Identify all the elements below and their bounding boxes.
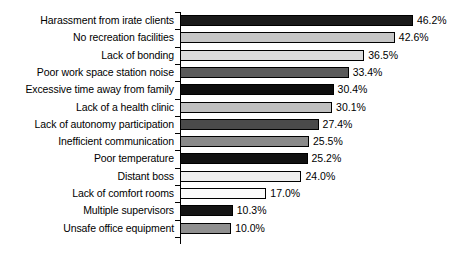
category-label: Lack of comfort rooms [0, 185, 174, 202]
axis-tick [175, 12, 180, 13]
category-label: Lack of a health clinic [0, 99, 174, 116]
category-label: Excessive time away from family [0, 81, 174, 98]
bar [181, 119, 319, 130]
bar [181, 67, 349, 78]
category-label: Poor work space station noise [0, 64, 174, 81]
axis-tick [175, 168, 180, 169]
bar-value-label: 10.3% [237, 202, 267, 219]
bar-row: Lack of bonding36.5% [0, 47, 461, 64]
category-label: Lack of autonomy participation [0, 116, 174, 133]
bar-fill [181, 153, 308, 164]
bar-value-label: 25.2% [312, 150, 342, 167]
bar-fill [181, 188, 266, 199]
bar-fill [181, 223, 231, 234]
bar-value-label: 10.0% [235, 220, 265, 237]
bar-row: Lack of comfort rooms17.0% [0, 185, 461, 202]
bar [181, 15, 413, 26]
axis-tick [175, 237, 180, 238]
bar-row: Unsafe office equipment10.0% [0, 220, 461, 237]
bar [181, 188, 266, 199]
bar-fill [181, 205, 233, 216]
category-label: Multiple supervisors [0, 202, 174, 219]
axis-tick [175, 64, 180, 65]
bar-value-label: 46.2% [417, 12, 447, 29]
bar [181, 32, 395, 43]
bar-row: Distant boss24.0% [0, 168, 461, 185]
axis-tick [175, 47, 180, 48]
bar-row: Excessive time away from family30.4% [0, 81, 461, 98]
bar [181, 153, 308, 164]
bar-value-label: 30.4% [338, 81, 368, 98]
bar [181, 223, 231, 234]
bar-fill [181, 102, 332, 113]
category-label: Harassment from irate clients [0, 12, 174, 29]
category-label: No recreation facilities [0, 29, 174, 46]
bar-value-label: 42.6% [399, 29, 429, 46]
bar-fill [181, 171, 301, 182]
bar-fill [181, 84, 334, 95]
bar-row: Lack of autonomy participation27.4% [0, 116, 461, 133]
bar-row: Multiple supervisors10.3% [0, 202, 461, 219]
bar-value-label: 25.5% [313, 133, 343, 150]
bar-value-label: 36.5% [368, 47, 398, 64]
bar-fill [181, 119, 319, 130]
category-label: Unsafe office equipment [0, 220, 174, 237]
bar-value-label: 24.0% [305, 168, 335, 185]
bar-value-label: 17.0% [270, 185, 300, 202]
axis-tick [175, 133, 180, 134]
axis-tick [175, 99, 180, 100]
category-label: Inefficient communication [0, 133, 174, 150]
bar-row: Harassment from irate clients46.2% [0, 12, 461, 29]
bar-value-label: 33.4% [353, 64, 383, 81]
bar [181, 102, 332, 113]
category-label: Distant boss [0, 168, 174, 185]
bar-row: Poor work space station noise33.4% [0, 64, 461, 81]
bar [181, 136, 309, 147]
category-label: Lack of bonding [0, 47, 174, 64]
bar-value-label: 27.4% [323, 116, 353, 133]
axis-tick [175, 116, 180, 117]
plot-area: Harassment from irate clients46.2%No rec… [0, 0, 461, 272]
axis-tick [175, 29, 180, 30]
category-label: Poor temperature [0, 150, 174, 167]
bar-fill [181, 67, 349, 78]
bar-row: Inefficient communication25.5% [0, 133, 461, 150]
bar-fill [181, 15, 413, 26]
bar-fill [181, 50, 364, 61]
bar [181, 84, 334, 95]
axis-tick [175, 185, 180, 186]
axis-tick [175, 202, 180, 203]
bar-fill [181, 136, 309, 147]
bar [181, 50, 364, 61]
bar [181, 205, 233, 216]
bar-chart: Harassment from irate clients46.2%No rec… [0, 0, 461, 272]
axis-tick [175, 81, 180, 82]
axis-tick [175, 150, 180, 151]
axis-tick [175, 220, 180, 221]
bar-row: Poor temperature25.2% [0, 150, 461, 167]
bar-row: No recreation facilities42.6% [0, 29, 461, 46]
bar [181, 171, 301, 182]
bar-row: Lack of a health clinic30.1% [0, 99, 461, 116]
bar-value-label: 30.1% [336, 99, 366, 116]
bar-fill [181, 32, 395, 43]
